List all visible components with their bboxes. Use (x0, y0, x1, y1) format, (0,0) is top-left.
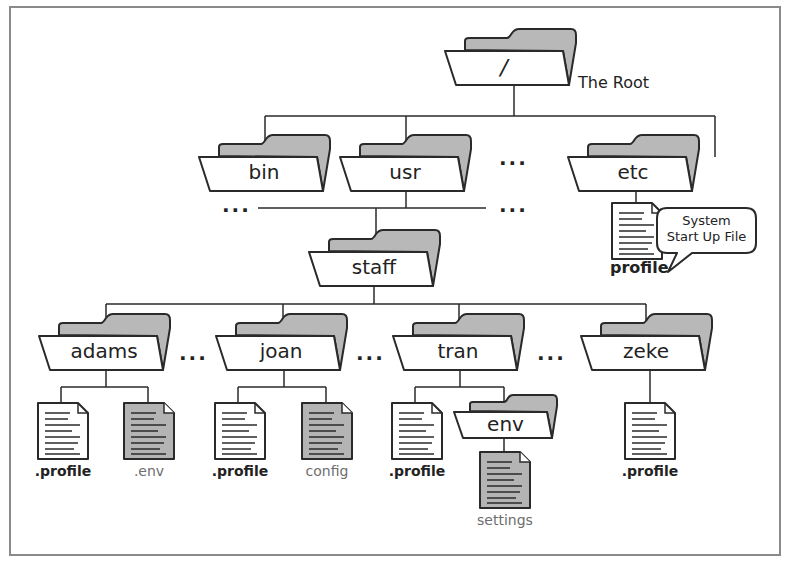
joan-config-label: config (297, 463, 357, 479)
adams-profile-label: .profile (33, 463, 93, 479)
tran-folder-label: tran (399, 339, 517, 363)
bin-folder-label: bin (205, 160, 323, 184)
adams-folder-label: adams (45, 339, 163, 363)
usr-folder-label: usr (346, 160, 464, 184)
directory-tree-diagram (0, 0, 786, 568)
ellipsis-users-1: ... (179, 341, 208, 365)
callout-text: System Start Up File (657, 213, 756, 245)
ellipsis-users-2: ... (356, 341, 385, 365)
env-folder-label: env (459, 412, 552, 436)
ellipsis-users-3: ... (537, 341, 566, 365)
callout-line-1: System (657, 213, 756, 229)
joan-profile-file-icon (215, 403, 265, 459)
settings-label: settings (470, 512, 540, 528)
zeke-profile-label: .profile (620, 463, 680, 479)
joan-config-file-icon (302, 403, 352, 459)
etc-folder-label: etc (574, 160, 692, 184)
callout-line-2: Start Up File (657, 229, 756, 245)
staff-folder-label: staff (315, 255, 433, 279)
settings-file-icon (480, 452, 530, 508)
joan-folder-label: joan (222, 339, 340, 363)
adams-env-label: .env (119, 463, 179, 479)
joan-profile-label: .profile (210, 463, 270, 479)
ellipsis-level1: ... (499, 146, 528, 170)
ellipsis-usr-left: ... (222, 193, 251, 217)
adams-profile-file-icon (38, 403, 88, 459)
tran-profile-label: .profile (387, 463, 447, 479)
root-folder-label: / (445, 55, 563, 80)
etc-profile-file-icon (612, 203, 662, 259)
ellipsis-usr-right: ... (499, 193, 528, 217)
zeke-profile-file-icon (625, 403, 675, 459)
tran-profile-file-icon (392, 403, 442, 459)
etc-profile-label: profile (610, 258, 669, 277)
zeke-folder-label: zeke (587, 339, 705, 363)
root-annotation: The Root (578, 73, 649, 92)
adams-env-file-icon (124, 403, 174, 459)
